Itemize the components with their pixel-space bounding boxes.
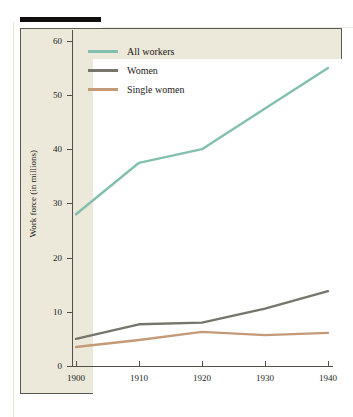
y-tick-label-40: 40 <box>34 144 62 154</box>
legend-swatch-icon <box>88 69 118 72</box>
x-tick-label-1910: 1910 <box>130 373 148 383</box>
y-tick-20 <box>67 258 73 259</box>
y-tick-40 <box>67 149 73 150</box>
legend-label: Women <box>127 65 158 76</box>
legend-item-0: All workers <box>88 42 185 61</box>
x-tick-1900 <box>76 361 77 367</box>
page-edge-left <box>13 22 14 417</box>
legend-swatch-icon <box>88 50 118 53</box>
chart-figure: 0102030405060 19001910192019301940 Work … <box>0 0 353 417</box>
y-tick-label-30: 30 <box>34 198 62 208</box>
top-rule-decoration <box>20 17 101 22</box>
y-axis-line <box>72 30 73 367</box>
legend-label: Single women <box>127 84 185 95</box>
y-tick-10 <box>67 312 73 313</box>
y-tick-label-10: 10 <box>34 307 62 317</box>
legend-item-2: Single women <box>88 80 185 99</box>
legend-swatch-icon <box>88 88 118 91</box>
y-tick-label-20: 20 <box>34 253 62 263</box>
legend-item-1: Women <box>88 61 185 80</box>
y-tick-50 <box>67 95 73 96</box>
y-tick-0 <box>67 366 73 367</box>
x-tick-label-1900: 1900 <box>67 373 85 383</box>
y-tick-label-50: 50 <box>34 90 62 100</box>
x-tick-1930 <box>265 361 266 367</box>
x-tick-label-1920: 1920 <box>193 373 211 383</box>
y-axis-label: Work force (in millions) <box>28 150 38 238</box>
x-tick-1920 <box>202 361 203 367</box>
x-tick-label-1940: 1940 <box>319 373 337 383</box>
plot-area <box>93 59 353 395</box>
y-tick-label-0: 0 <box>34 361 62 371</box>
x-tick-1910 <box>139 361 140 367</box>
x-tick-label-1930: 1930 <box>256 373 274 383</box>
x-tick-1940 <box>328 361 329 367</box>
legend-label: All workers <box>127 46 175 57</box>
y-tick-label-60: 60 <box>34 36 62 46</box>
y-tick-30 <box>67 203 73 204</box>
y-tick-60 <box>67 41 73 42</box>
chart-legend: All workersWomenSingle women <box>88 42 185 99</box>
